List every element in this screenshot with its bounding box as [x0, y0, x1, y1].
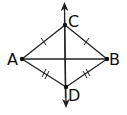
label-a: A	[7, 50, 18, 69]
kite-diagram: A B C D	[0, 0, 127, 115]
point-c	[63, 23, 67, 27]
line-dc	[65, 20, 67, 104]
tick-ad-1	[42, 69, 46, 77]
label-b: B	[109, 50, 120, 69]
label-c: C	[68, 12, 79, 31]
label-d: D	[68, 86, 80, 105]
segment-db	[66, 59, 107, 87]
tick-ad-2	[45, 71, 49, 79]
point-a	[20, 57, 24, 61]
